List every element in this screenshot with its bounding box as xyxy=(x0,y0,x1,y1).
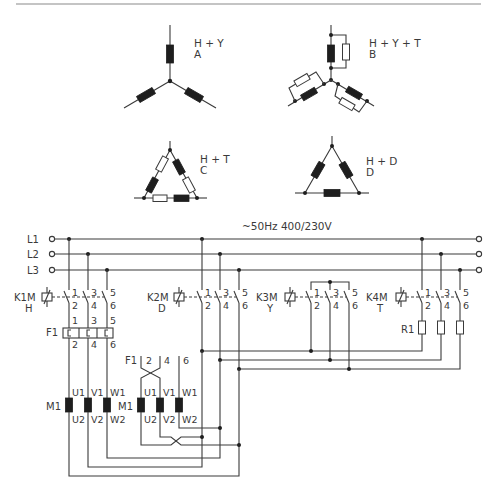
svg-text:3: 3 xyxy=(444,287,450,298)
heating-element-icon xyxy=(311,161,325,178)
overload-f1: 1 3 5 F1 2 4 6 xyxy=(46,315,116,398)
heating-element-icon xyxy=(136,87,155,102)
svg-text:W2: W2 xyxy=(182,414,197,425)
svg-text:1: 1 xyxy=(425,287,431,298)
config-c-triangle-series: H + T C xyxy=(134,141,230,202)
heating-element-icon xyxy=(174,195,189,202)
svg-text:2: 2 xyxy=(72,339,78,350)
resistor-icon xyxy=(438,321,445,334)
svg-text:U2: U2 xyxy=(72,414,85,425)
terminal-icon xyxy=(49,236,54,241)
k4m-mode: T xyxy=(376,303,384,314)
f1-label: F1 xyxy=(46,327,58,338)
winding-icon xyxy=(176,398,183,412)
svg-text:U1: U1 xyxy=(72,387,85,398)
svg-text:V1: V1 xyxy=(163,387,176,398)
svg-text:2: 2 xyxy=(314,300,320,311)
svg-text:4: 4 xyxy=(91,300,97,311)
config-d-letter: D xyxy=(366,166,374,178)
svg-text:U1: U1 xyxy=(144,387,157,398)
svg-text:W1: W1 xyxy=(182,387,197,398)
svg-text:4: 4 xyxy=(91,339,97,350)
svg-text:6: 6 xyxy=(110,300,116,311)
svg-text:5: 5 xyxy=(352,287,358,298)
resistor-icon xyxy=(339,97,355,110)
config-b-letter: B xyxy=(369,48,376,60)
config-a-letter: A xyxy=(194,48,202,60)
svg-text:6: 6 xyxy=(242,300,248,311)
svg-text:6: 6 xyxy=(352,300,358,311)
svg-text:2: 2 xyxy=(72,300,78,311)
resistor-icon xyxy=(457,321,464,334)
supply-label: ~50Hz 400/230V xyxy=(242,220,333,232)
heating-element-icon xyxy=(146,177,159,193)
svg-text:2: 2 xyxy=(425,300,431,311)
svg-text:U2: U2 xyxy=(144,414,157,425)
config-d-delta: H + D D xyxy=(295,136,397,197)
node-dot xyxy=(168,79,172,83)
svg-text:5: 5 xyxy=(110,315,116,326)
svg-text:1: 1 xyxy=(205,287,211,298)
resistor-icon xyxy=(153,195,167,202)
k1m-label: K1M xyxy=(14,292,36,303)
heating-element-icon xyxy=(324,190,340,197)
winding-icon xyxy=(138,398,145,412)
svg-text:2: 2 xyxy=(205,300,211,311)
winding-icon xyxy=(157,398,164,412)
terminal-icon xyxy=(476,267,481,272)
svg-text:V1: V1 xyxy=(91,387,104,398)
supply-lines: ~50Hz 400/230V L1 L2 L3 xyxy=(27,220,482,276)
terminal-icon xyxy=(476,251,481,256)
heating-element-icon xyxy=(184,87,203,102)
contactor-k2m: K2M D 1 3 5 2 4 6 xyxy=(147,239,248,369)
winding-icon xyxy=(104,398,111,412)
svg-text:5: 5 xyxy=(242,287,248,298)
r1-label: R1 xyxy=(401,324,414,335)
svg-text:1: 1 xyxy=(72,287,78,298)
line-l3-label: L3 xyxy=(27,265,39,276)
line-l2-label: L2 xyxy=(27,249,39,260)
svg-text:6: 6 xyxy=(463,300,469,311)
config-c-letter: C xyxy=(200,164,207,176)
heating-element-icon xyxy=(167,45,174,63)
config-b-title: H + Y + T xyxy=(369,37,421,49)
svg-text:4: 4 xyxy=(444,300,450,311)
resistor-icon xyxy=(294,73,310,86)
svg-text:5: 5 xyxy=(463,287,469,298)
resistor-icon xyxy=(419,321,426,334)
motor2-label: M1 xyxy=(118,401,133,412)
motor-2-reference: F1 2 4 6 M1 U1 V1 W1 U2 V2 W2 xyxy=(118,355,241,447)
terminal-icon xyxy=(476,236,481,241)
svg-text:1: 1 xyxy=(314,287,320,298)
k2m-label: K2M xyxy=(147,292,169,303)
f1-ref-label: F1 xyxy=(125,355,137,366)
svg-text:V2: V2 xyxy=(91,414,104,425)
svg-text:5: 5 xyxy=(110,287,116,298)
svg-text:4: 4 xyxy=(333,300,339,311)
svg-text:2: 2 xyxy=(146,355,152,366)
heating-element-icon xyxy=(328,45,335,62)
contactor-k3m: K3M Y 1 3 5 2 4 6 xyxy=(256,280,358,369)
config-a-star: H + Y A xyxy=(124,25,224,108)
svg-text:W2: W2 xyxy=(110,414,125,425)
svg-text:1: 1 xyxy=(72,315,78,326)
svg-text:4: 4 xyxy=(223,300,229,311)
schematic-canvas: H + Y A H + Y + T B xyxy=(0,0,499,493)
terminal-icon xyxy=(49,267,54,272)
motor1-label: M1 xyxy=(46,401,61,412)
svg-text:3: 3 xyxy=(333,287,339,298)
heating-element-icon xyxy=(339,161,353,178)
k2m-mode: D xyxy=(158,303,166,314)
svg-text:6: 6 xyxy=(183,355,189,366)
config-b-star-parallel: H + Y + T B xyxy=(288,25,421,112)
svg-text:4: 4 xyxy=(164,355,170,366)
k3m-label: K3M xyxy=(256,292,278,303)
motor-1: M1 U1 V1 W1 U2 V2 W2 xyxy=(46,351,239,476)
k3m-mode: Y xyxy=(266,303,274,314)
resistor-icon xyxy=(183,177,196,193)
svg-text:V2: V2 xyxy=(163,414,176,425)
k4m-label: K4M xyxy=(366,292,388,303)
line-l1-label: L1 xyxy=(27,234,39,245)
resistor-icon xyxy=(156,156,169,172)
svg-text:3: 3 xyxy=(223,287,229,298)
